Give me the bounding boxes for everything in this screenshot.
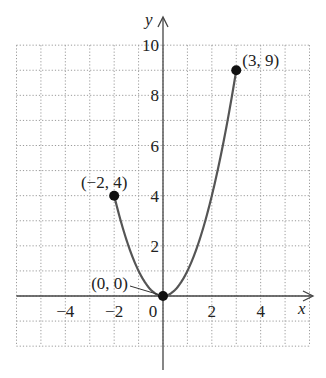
y-axis-label: y [143, 10, 153, 29]
labeled-points: (−2, 4)(0, 0)(3, 9) [81, 51, 279, 301]
point-label: (−2, 4) [81, 173, 127, 192]
point-label: (3, 9) [242, 51, 279, 70]
x-tick-label: −4 [56, 302, 75, 321]
x-tick-label: 4 [256, 302, 265, 321]
x-tick-label: 0 [149, 302, 158, 321]
x-tick-label: 2 [208, 302, 217, 321]
data-point-marker [109, 191, 119, 201]
parabola-curve [114, 70, 236, 296]
y-tick-label: 10 [142, 36, 159, 55]
x-tick-label: −2 [105, 302, 123, 321]
label-leader-line [130, 286, 160, 295]
graph-canvas: −4−2024246810 (−2, 4)(0, 0)(3, 9) x y [0, 0, 326, 378]
data-point-marker [158, 291, 168, 301]
data-point-marker [231, 65, 241, 75]
y-tick-label: 2 [151, 237, 160, 256]
y-tick-label: 8 [151, 86, 160, 105]
y-tick-label: 6 [151, 137, 160, 156]
x-axis-label: x [297, 299, 306, 318]
y-tick-label: 4 [151, 187, 160, 206]
parabola-path [114, 70, 236, 296]
point-label: (0, 0) [91, 274, 128, 293]
